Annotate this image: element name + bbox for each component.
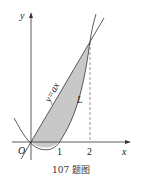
y-axis-label: y xyxy=(19,10,25,21)
x-axis-label: x xyxy=(121,146,127,157)
x-axis-arrow-icon xyxy=(125,140,131,144)
tick-2: 2 xyxy=(87,146,92,157)
figure-canvas: y x O 1 2 y=ax L xyxy=(0,0,142,182)
origin-label: O xyxy=(18,145,25,156)
tick-1: 1 xyxy=(57,146,62,157)
curve-label: L xyxy=(76,94,83,105)
figure-caption: 107 题图 xyxy=(0,163,142,176)
y-axis-arrow-icon xyxy=(29,12,33,18)
